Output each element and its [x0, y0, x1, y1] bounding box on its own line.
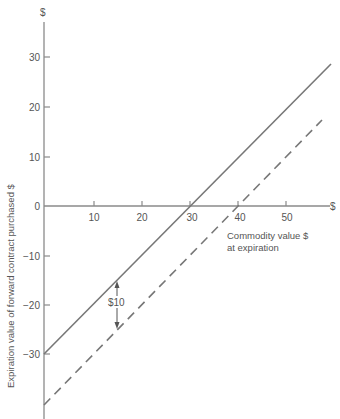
- svg-text:10: 10: [29, 152, 41, 163]
- y-axis-title: Expiration value of forward contract pur…: [5, 183, 16, 388]
- ten-dollar-annotation: $10: [108, 297, 125, 308]
- svg-text:40: 40: [234, 212, 246, 223]
- svg-text:20: 20: [29, 102, 41, 113]
- y-axis-dollar-label: $: [40, 7, 46, 18]
- svg-text:30: 30: [29, 52, 41, 63]
- payoff-chart: $ $ 30 20 10 0 −10 −20 −30 10 20 30 40 5…: [0, 0, 340, 419]
- svg-text:20: 20: [136, 212, 148, 223]
- x-axis-title-line1: Commodity value $: [227, 230, 309, 241]
- x-tick-labels: 10 20 30 40 50: [88, 212, 293, 223]
- svg-text:−30: −30: [23, 349, 40, 360]
- svg-text:−20: −20: [23, 300, 40, 311]
- svg-text:−10: −10: [23, 251, 40, 262]
- x-axis-dollar-label: $: [330, 201, 336, 212]
- y-tick-labels: 30 20 10 0 −10 −20 −30: [23, 52, 40, 360]
- svg-text:0: 0: [34, 201, 40, 212]
- dashed-payoff-line: [44, 120, 322, 405]
- svg-text:50: 50: [281, 212, 293, 223]
- svg-text:10: 10: [88, 212, 100, 223]
- x-axis-title-line2: at expiration: [227, 242, 279, 253]
- x-ticks: [94, 201, 286, 206]
- svg-text:30: 30: [186, 212, 198, 223]
- solid-payoff-line: [44, 64, 331, 354]
